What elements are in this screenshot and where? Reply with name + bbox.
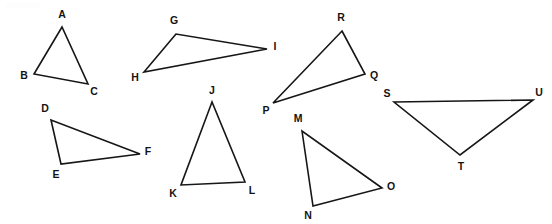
vertex-label-i: I xyxy=(274,40,277,52)
vertex-label-g: G xyxy=(170,14,178,26)
vertex-label-k: K xyxy=(169,187,177,199)
triangle-stu xyxy=(394,100,533,155)
triangles-diagram: ABCGHIRQPDEFJKLMNOSUT xyxy=(0,0,552,224)
triangle-jkl xyxy=(181,102,245,185)
triangle-ghi xyxy=(144,34,267,72)
vertex-label-e: E xyxy=(52,168,59,180)
vertex-label-a: A xyxy=(58,8,66,20)
vertex-label-b: B xyxy=(20,69,28,81)
vertex-label-p: P xyxy=(262,104,269,116)
vertex-label-h: H xyxy=(131,71,139,83)
vertex-label-s: S xyxy=(383,87,390,99)
vertex-label-t: T xyxy=(458,160,465,172)
vertex-label-d: D xyxy=(41,102,49,114)
vertex-label-l: L xyxy=(249,184,256,196)
shape-layer xyxy=(34,27,533,206)
vertex-label-u: U xyxy=(535,86,543,98)
label-layer: ABCGHIRQPDEFJKLMNOSUT xyxy=(20,8,543,221)
triangle-abc xyxy=(34,27,88,84)
vertex-label-r: R xyxy=(337,11,345,23)
vertex-label-c: C xyxy=(90,85,98,97)
vertex-label-j: J xyxy=(209,84,215,96)
vertex-label-f: F xyxy=(145,145,152,157)
vertex-label-o: O xyxy=(387,180,395,192)
triangle-mno xyxy=(302,131,382,206)
vertex-label-q: Q xyxy=(370,69,378,81)
vertex-label-n: N xyxy=(304,209,312,221)
figure-canvas: ABCGHIRQPDEFJKLMNOSUT xyxy=(0,0,552,224)
triangle-def xyxy=(51,120,140,164)
triangle-pqr xyxy=(273,31,365,103)
vertex-label-m: M xyxy=(294,112,303,124)
